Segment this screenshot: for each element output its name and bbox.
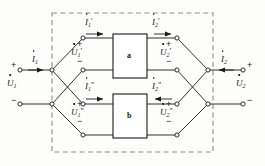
node-output-terminal-bottom: [241, 102, 245, 106]
wire-b-out-bottom-to-right-jb: [177, 104, 208, 135]
phasor-dot-u1: [9, 74, 11, 76]
figure-canvas: + − + − U1 U2 I1 I2 I1′ I2′ + U1′ − + U2…: [0, 0, 265, 166]
node-input-terminal-top: [18, 68, 22, 72]
phasor-dot-u2: [238, 74, 240, 76]
label-u1-main: U1: [7, 79, 17, 88]
node-input-terminal-bottom: [18, 102, 22, 106]
phasor-dot-i1-prime: [86, 13, 88, 15]
wire-a-out-top-to-right-jt: [177, 38, 208, 70]
input-plus-sign: +: [11, 61, 16, 70]
phasor-dot-i1-double-prime: [86, 77, 88, 79]
network-a-label: a: [127, 52, 131, 60]
node-input-junction-bottom: [50, 102, 54, 106]
network-boxes-group: [113, 34, 147, 138]
phasor-dot-i2: [222, 50, 224, 52]
node-net-b-out-bottom: [175, 133, 179, 137]
output-minus-sign: −: [247, 96, 252, 105]
node-net-a-out-bottom: [175, 68, 179, 72]
label-i2-prime: I2′: [152, 18, 160, 27]
node-net-b-out-top: [175, 102, 179, 106]
phasor-dot-u2-prime: [162, 43, 164, 45]
node-output-terminal-top: [241, 68, 245, 72]
phasor-dot-u1-prime: [73, 43, 75, 45]
node-output-junction-top: [206, 68, 210, 72]
phasor-dot-u1-double-prime: [73, 103, 75, 105]
node-net-a-out-top: [175, 36, 179, 40]
label-i2-main: I2: [221, 55, 227, 64]
u1-prime-minus-sign: −: [77, 57, 82, 66]
label-i2-double-prime: I2″: [152, 82, 161, 91]
phasor-dot-u2-double-prime: [162, 103, 164, 105]
label-u2-main: U2: [236, 79, 246, 88]
circuit-diagram-svg: [0, 0, 265, 166]
network-b-label: b: [127, 112, 131, 120]
node-net-a-in-bottom: [81, 68, 85, 72]
node-net-b-in-bottom: [81, 133, 85, 137]
phasor-dot-i1: [33, 50, 35, 52]
u2-prime-minus-sign: −: [166, 57, 171, 66]
node-output-junction-bottom: [206, 102, 210, 106]
label-i1-main: I1: [32, 55, 38, 64]
phasor-dot-i2-prime: [153, 13, 155, 15]
input-minus-sign: −: [11, 96, 16, 105]
phasor-dot-i2-double-prime: [153, 77, 155, 79]
label-i1-prime: I1′: [85, 18, 93, 27]
label-i1-double-prime: I1″: [85, 82, 94, 91]
u2-double-prime-minus-sign: −: [166, 117, 171, 126]
u1-double-prime-minus-sign: −: [77, 117, 82, 126]
output-plus-sign: +: [247, 61, 252, 70]
node-input-junction-top: [50, 68, 54, 72]
